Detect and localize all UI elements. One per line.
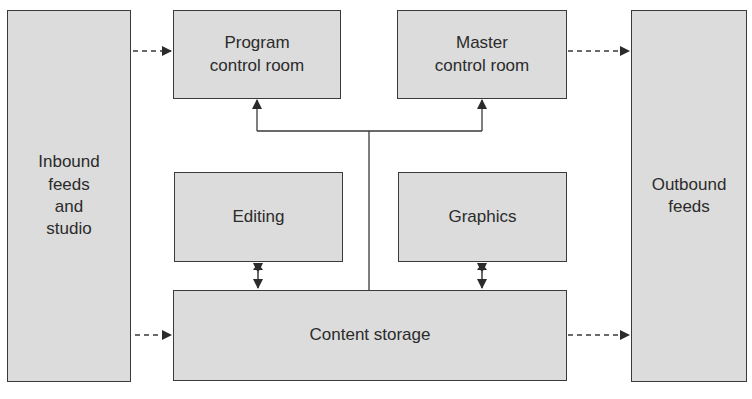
node-graphics-label: Graphics <box>448 206 516 228</box>
node-outbound-feeds: Outbound feeds <box>631 10 747 382</box>
arrowhead-editing-up <box>253 263 263 270</box>
arrowhead-graphics-up <box>477 263 487 270</box>
node-program-control-label: Program control room <box>210 32 304 77</box>
node-editing-label: Editing <box>233 206 285 228</box>
node-editing: Editing <box>174 172 343 262</box>
node-inbound-feeds-and-studio: Inbound feeds and studio <box>7 10 131 382</box>
node-master-control-label: Master control room <box>435 32 529 77</box>
node-master-control-room: Master control room <box>397 10 567 99</box>
node-content-storage: Content storage <box>173 290 567 381</box>
node-program-control-room: Program control room <box>173 10 341 99</box>
node-graphics: Graphics <box>398 172 567 262</box>
node-outbound-label: Outbound feeds <box>652 174 727 219</box>
node-inbound-label: Inbound feeds and studio <box>38 151 99 241</box>
node-content-storage-label: Content storage <box>310 324 431 346</box>
